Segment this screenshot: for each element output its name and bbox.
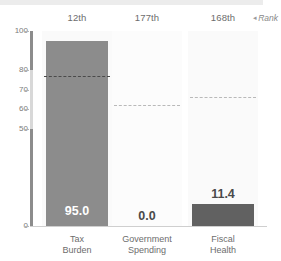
bar-fiscal-health [192,204,254,226]
x-axis-baseline [30,226,267,227]
y-axis-tick-mark [24,70,29,71]
bar-tax-burden [46,41,108,226]
category-label-line1: Tax [70,234,84,244]
y-axis-accent-segment [30,70,33,129]
column-panel-government-spending [112,31,182,226]
value-label-fiscal-health: 11.4 [188,187,258,201]
value-label-government-spending: 0.0 [112,209,182,223]
reference-line-tax-burden [44,76,110,77]
y-axis-accent-segment [30,31,33,70]
reference-line-fiscal-health [190,97,256,98]
category-label-fiscal-health: FiscalHealth [179,234,267,256]
y-axis-accent-segment [30,129,33,227]
y-axis-tick-mark [24,90,29,91]
y-axis-tick-mark [24,129,29,130]
reference-line-government-spending [114,105,180,106]
category-label-government-spending: GovernmentSpending [103,234,191,256]
category-label-line1: Government [122,234,172,244]
y-axis-tick-mark [24,226,29,227]
y-axis-tick-mark [24,109,29,110]
category-label-line2: Health [179,245,267,256]
value-label-tax-burden: 95.0 [42,204,112,218]
category-label-line1: Fiscal [211,234,235,244]
category-label-line2: Spending [103,245,191,256]
bar-chart: 12th 177th 168th ◂Rank 10080706050095.0T… [0,0,281,261]
plot-area: 10080706050095.0TaxBurden0.0GovernmentSp… [0,0,281,261]
y-axis-tick-mark [24,31,29,32]
